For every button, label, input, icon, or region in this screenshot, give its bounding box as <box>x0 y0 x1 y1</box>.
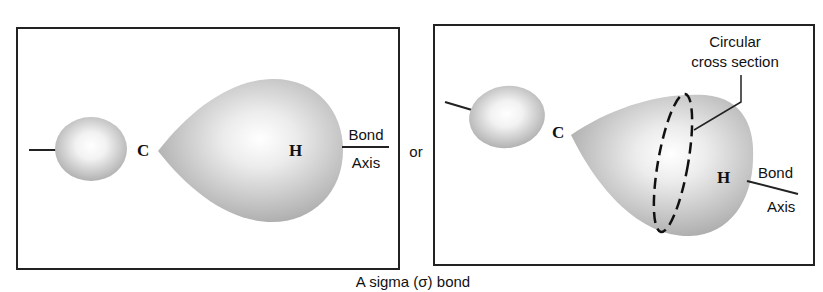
callout-line2: cross section <box>691 53 779 70</box>
bond-label: Bond <box>758 164 793 181</box>
figure-caption: A sigma (σ) bond <box>356 273 470 290</box>
or-connector: or <box>409 143 422 160</box>
right-panel: C H Bond Axis Circular cross section <box>434 25 814 265</box>
bond-label: Bond <box>348 126 383 143</box>
large-lobe <box>571 95 753 236</box>
large-lobe <box>158 79 343 222</box>
axis-label: Axis <box>352 154 380 171</box>
atom-h-label: H <box>289 141 302 160</box>
atom-c-label: C <box>552 123 564 142</box>
bond-axis-line-left <box>445 102 472 110</box>
small-lobe <box>465 81 549 153</box>
callout-line1: Circular <box>709 33 761 50</box>
bond-axis-line-right <box>747 181 798 194</box>
small-lobe <box>55 117 127 181</box>
atom-h-label: H <box>717 168 730 187</box>
sigma-bond-diagram: C H Bond Axis or C H Bond Axis Circular … <box>0 0 823 292</box>
atom-c-label: C <box>137 141 149 160</box>
left-panel: C H Bond Axis <box>17 28 399 269</box>
axis-label: Axis <box>767 198 795 215</box>
